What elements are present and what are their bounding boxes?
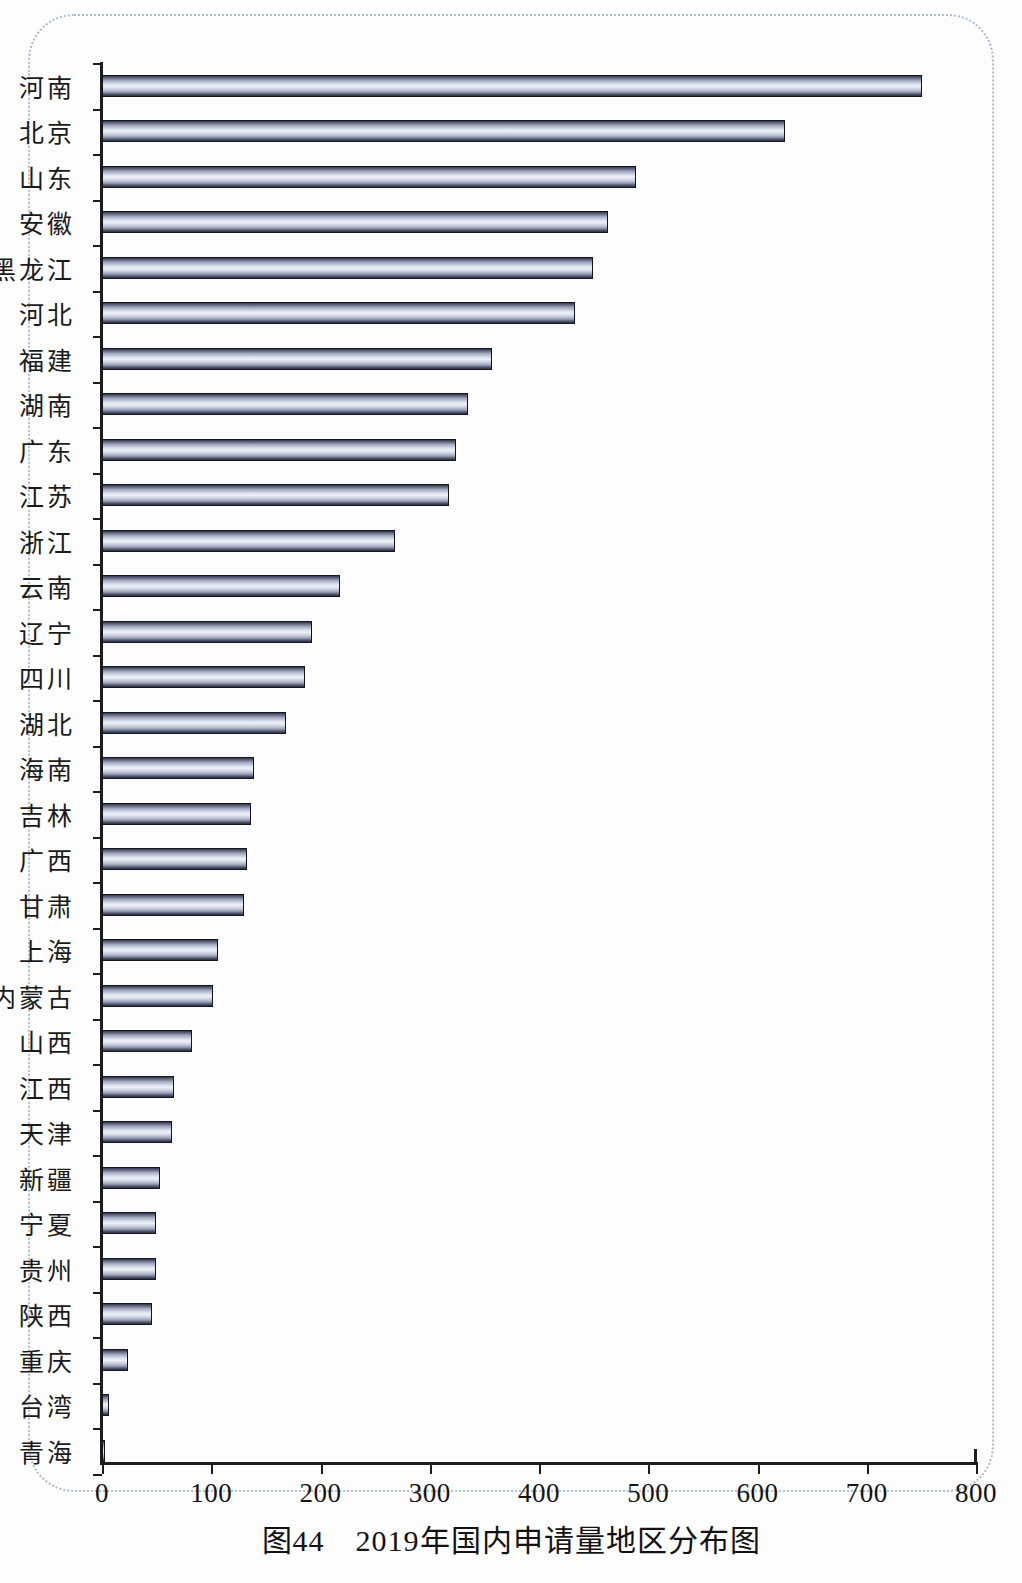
category-label: 江西 — [19, 1069, 85, 1105]
category-label: 新疆 — [19, 1160, 85, 1196]
bar-row: 北京 — [102, 109, 976, 155]
bar — [102, 484, 449, 506]
y-axis-tick — [93, 655, 102, 657]
bar-row: 贵州 — [102, 1246, 976, 1292]
category-label: 宁夏 — [19, 1205, 85, 1241]
y-axis-tick — [93, 1337, 102, 1339]
x-axis-tick — [321, 1462, 323, 1474]
category-label: 上海 — [19, 932, 85, 968]
category-label: 河南 — [19, 68, 85, 104]
bar — [102, 575, 340, 597]
y-axis-tick — [93, 700, 102, 702]
x-axis-tick — [102, 1462, 104, 1474]
bar — [102, 439, 456, 461]
bar-row: 湖北 — [102, 700, 976, 746]
y-axis-tick — [93, 746, 102, 748]
category-label: 湖北 — [19, 705, 85, 741]
category-label: 云南 — [19, 568, 85, 604]
bar — [102, 530, 395, 552]
category-label: 浙江 — [19, 523, 85, 559]
category-label: 福建 — [19, 341, 85, 377]
x-axis-tick-label: 100 — [166, 1478, 256, 1509]
category-label: 湖南 — [19, 386, 85, 422]
category-label: 山东 — [19, 159, 85, 195]
bar-row: 广西 — [102, 837, 976, 883]
bar — [102, 1258, 156, 1280]
bar — [102, 1212, 156, 1234]
bar-row: 四川 — [102, 655, 976, 701]
bar — [102, 348, 492, 370]
y-axis-tick — [93, 1246, 102, 1248]
y-axis-tick — [93, 382, 102, 384]
bar-row: 辽宁 — [102, 609, 976, 655]
x-axis-tick-label: 400 — [494, 1478, 584, 1509]
bar-row: 海南 — [102, 746, 976, 792]
y-axis-tick — [93, 882, 102, 884]
category-label: 青海 — [19, 1433, 85, 1469]
x-axis-tick — [758, 1462, 760, 1474]
category-label: 辽宁 — [19, 614, 85, 650]
bar — [102, 666, 305, 688]
bar — [102, 257, 593, 279]
category-label: 吉林 — [19, 796, 85, 832]
x-axis-tick — [976, 1462, 978, 1474]
x-axis-tick — [430, 1462, 432, 1474]
bar — [102, 1394, 109, 1416]
figure-caption: 图44 2019年国内申请量地区分布图 — [0, 1516, 1022, 1560]
bar-row: 湖南 — [102, 382, 976, 428]
x-axis-tick-label: 0 — [57, 1478, 147, 1509]
x-axis-tick-label: 500 — [603, 1478, 693, 1509]
bar-row: 天津 — [102, 1110, 976, 1156]
y-axis-tick — [93, 609, 102, 611]
category-label: 台湾 — [19, 1387, 85, 1423]
bar — [102, 166, 636, 188]
bar-row: 内蒙古 — [102, 973, 976, 1019]
bar — [102, 302, 575, 324]
bar-row: 山西 — [102, 1019, 976, 1065]
y-axis-tick — [93, 473, 102, 475]
bar-row: 新疆 — [102, 1155, 976, 1201]
bar-row: 吉林 — [102, 791, 976, 837]
bar — [102, 621, 312, 643]
y-axis-tick — [93, 63, 102, 65]
bar — [102, 1349, 128, 1371]
bar-row: 河南 — [102, 63, 976, 109]
y-axis-tick — [93, 928, 102, 930]
x-axis-tick-label: 800 — [931, 1478, 1021, 1509]
y-axis-tick — [93, 427, 102, 429]
y-axis-tick — [93, 1110, 102, 1112]
category-label: 内蒙古 — [0, 978, 85, 1014]
bar-row: 浙江 — [102, 518, 976, 564]
category-label: 黑龙江 — [0, 250, 85, 286]
y-axis-tick — [93, 291, 102, 293]
y-axis-tick — [93, 1474, 102, 1476]
bar-chart: 河南北京山东安徽黑龙江河北福建湖南广东江苏浙江云南辽宁四川湖北海南吉林广西甘肃上… — [0, 0, 1022, 1583]
bar-row: 广东 — [102, 427, 976, 473]
category-label: 贵州 — [19, 1251, 85, 1287]
category-label: 山西 — [19, 1023, 85, 1059]
x-axis-tick-label: 600 — [713, 1478, 803, 1509]
bar — [102, 1076, 174, 1098]
category-label: 江苏 — [19, 477, 85, 513]
bar — [102, 712, 286, 734]
y-axis-tick — [93, 1201, 102, 1203]
bar — [102, 894, 244, 916]
bar-row: 河北 — [102, 291, 976, 337]
bar-row: 云南 — [102, 564, 976, 610]
category-label: 甘肃 — [19, 887, 85, 923]
bar-row: 山东 — [102, 154, 976, 200]
y-axis-tick — [93, 336, 102, 338]
x-axis-tick — [539, 1462, 541, 1474]
bar — [102, 803, 251, 825]
bar — [102, 939, 218, 961]
y-axis-tick — [93, 1064, 102, 1066]
category-label: 广东 — [19, 432, 85, 468]
bar-row: 安徽 — [102, 200, 976, 246]
bar-row: 宁夏 — [102, 1201, 976, 1247]
x-axis-tick-label: 200 — [276, 1478, 366, 1509]
y-axis-tick — [93, 154, 102, 156]
x-axis-tick-label: 700 — [822, 1478, 912, 1509]
y-axis-tick — [93, 518, 102, 520]
bar-row: 黑龙江 — [102, 245, 976, 291]
category-label: 四川 — [19, 659, 85, 695]
